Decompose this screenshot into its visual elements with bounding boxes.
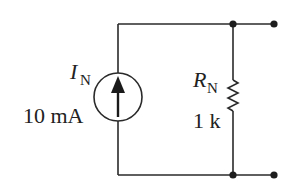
terminal-dot-bottom	[270, 171, 277, 178]
resistor-value-label: 1 k	[193, 108, 221, 133]
norton-circuit-diagram: I N 10 mA R N 1 k	[0, 0, 296, 190]
nodes	[229, 20, 277, 178]
resistor-subscript-label: N	[207, 80, 218, 96]
terminal-dot-top	[270, 20, 277, 27]
source-value-label: 10 mA	[23, 103, 84, 128]
current-source	[94, 73, 142, 121]
junction-dot-top	[229, 20, 236, 27]
resistor-zigzag	[228, 80, 238, 111]
junction-dot-bottom	[229, 171, 236, 178]
source-symbol-label: I	[69, 59, 79, 84]
source-subscript-label: N	[80, 72, 91, 88]
resistor-symbol-label: R	[192, 67, 207, 92]
